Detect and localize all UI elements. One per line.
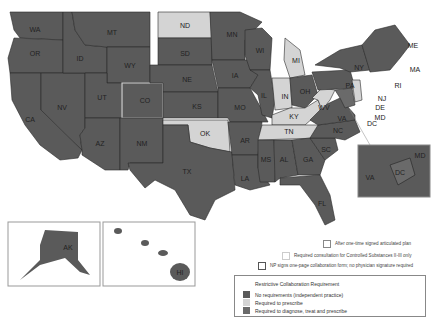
label-AK: AK: [63, 244, 73, 251]
label-CO: CO: [140, 97, 151, 104]
label-AR: AR: [240, 137, 250, 144]
legend-outline-articulated-plan: [323, 240, 331, 248]
legend-outline-collaboration-form: [258, 262, 266, 270]
label-AL: AL: [280, 156, 289, 163]
label-KS: KS: [192, 103, 202, 110]
label-NJ: NJ: [378, 95, 387, 102]
label-HI: HI: [177, 269, 184, 276]
legend-swatch: [243, 291, 250, 298]
label-MO: MO: [234, 104, 246, 111]
label-TN: TN: [284, 128, 293, 135]
state-New-England[interactable]: [362, 25, 410, 72]
legend-text-controlled-substances: Required consultation for Controlled Sub…: [294, 253, 411, 258]
label-SC: SC: [321, 146, 331, 153]
label-OK: OK: [200, 130, 210, 137]
label-DC: DC: [367, 120, 377, 127]
label-IN: IN: [282, 93, 289, 100]
legend-item-independent: No requirements (independent practice): [243, 291, 343, 298]
label-LA: LA: [241, 175, 250, 182]
legend-swatch: [243, 307, 250, 314]
label-MS: MS: [261, 156, 272, 163]
label-WY: WY: [124, 62, 136, 69]
label-NC: NC: [333, 127, 343, 134]
us-map: WA OR CA NV ID MT WY UT CO AZ NM ND SD N…: [0, 0, 436, 320]
label-OR: OR: [30, 50, 41, 57]
label-ME: ME: [408, 42, 419, 49]
label-NV: NV: [57, 104, 67, 111]
legend-text-collaboration-form: NP signs one-page collaboration form; no…: [270, 263, 413, 268]
legend-text-articulated-plan: After one-time signed articulated plan: [335, 241, 411, 246]
label-CA: CA: [25, 116, 35, 123]
label-TX: TX: [183, 168, 192, 175]
label-IL: IL: [261, 92, 267, 99]
legend-item-prescribe: Required to prescribe: [243, 299, 303, 306]
label-PA: PA: [346, 82, 355, 89]
label-RI: RI: [395, 82, 402, 89]
label-WV: WV: [318, 104, 330, 111]
label-WI: WI: [256, 47, 265, 54]
legend-swatch: [243, 299, 250, 306]
label-ID: ID: [77, 55, 84, 62]
label-ND: ND: [180, 22, 190, 29]
legend-title: Restrictive Collaboration Requirement: [255, 281, 339, 287]
label-UT: UT: [97, 94, 107, 101]
label-inset-DC: DC: [395, 169, 405, 176]
label-IA: IA: [232, 72, 239, 79]
label-MT: MT: [107, 29, 118, 36]
label-OH: OH: [300, 88, 311, 95]
label-VA: VA: [338, 115, 347, 122]
state-KS[interactable]: [163, 92, 218, 118]
label-MN: MN: [227, 31, 238, 38]
label-AZ: AZ: [96, 140, 106, 147]
label-FL: FL: [318, 200, 326, 207]
legend-item-diagnose: Required to diagnose, treat and prescrib…: [243, 307, 347, 314]
label-WA: WA: [29, 26, 40, 33]
legend: Restrictive Collaboration Requirement No…: [234, 275, 426, 317]
label-SD: SD: [180, 50, 190, 57]
state-FL[interactable]: [280, 175, 335, 225]
label-NE: NE: [182, 76, 192, 83]
label-MA: MA: [410, 66, 421, 73]
label-MI: MI: [292, 57, 300, 64]
legend-outline-controlled-substances: [282, 252, 290, 260]
label-NM: NM: [137, 140, 148, 147]
label-DE: DE: [375, 104, 385, 111]
label-inset-MD: MD: [415, 152, 426, 159]
label-inset-VA: VA: [366, 174, 375, 181]
label-GA: GA: [303, 156, 313, 163]
label-NY: NY: [354, 64, 364, 71]
label-KY: KY: [289, 113, 299, 120]
